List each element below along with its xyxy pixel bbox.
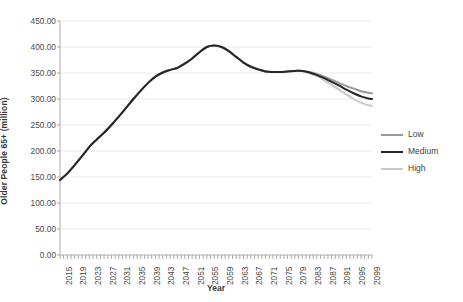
- legend-item-label: Low: [408, 130, 424, 139]
- series-line-high: [60, 45, 372, 180]
- y-tick-label: 100.00: [10, 198, 56, 208]
- legend-line-swatch: [381, 134, 403, 136]
- legend-line-swatch: [381, 168, 403, 170]
- series-line-low: [60, 45, 372, 180]
- legend-item-label: High: [408, 164, 425, 173]
- y-tick-label: 300.00: [10, 94, 56, 104]
- legend-item-label: Medium: [408, 147, 438, 156]
- series-line-medium: [60, 45, 372, 180]
- y-tick-label: 350.00: [10, 68, 56, 78]
- x-tick-label: 2099: [372, 267, 382, 285]
- legend: LowMediumHigh: [381, 126, 461, 177]
- y-tick-label: 250.00: [10, 120, 56, 130]
- legend-item-low[interactable]: Low: [381, 126, 461, 143]
- x-axis-title: Year: [60, 283, 372, 293]
- y-tick-label: 450.00: [10, 16, 56, 26]
- y-tick-label: 200.00: [10, 146, 56, 156]
- legend-line-swatch: [381, 151, 403, 153]
- legend-item-high[interactable]: High: [381, 160, 461, 177]
- legend-item-medium[interactable]: Medium: [381, 143, 461, 160]
- y-axis-tick-labels: 0.0050.00100.00150.00200.00250.00300.003…: [0, 0, 56, 302]
- y-tick-label: 50.00: [10, 224, 56, 234]
- line-chart: Older People 65+ (million) 0.0050.00100.…: [0, 0, 463, 302]
- y-tick-label: 0.00: [10, 250, 56, 260]
- y-tick-label: 400.00: [10, 42, 56, 52]
- y-tick-label: 150.00: [10, 172, 56, 182]
